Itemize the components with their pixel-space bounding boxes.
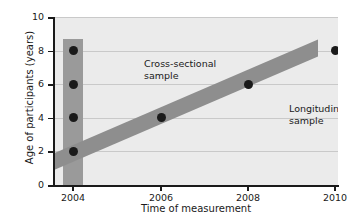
y-axis-line [53,17,55,186]
data-point-2004-6 [69,80,78,89]
data-point-2004-8 [69,46,78,55]
x-axis-line [53,185,339,187]
x-axis-title: Time of measurement [54,203,338,214]
x-tick-label-2010: 2010 [315,192,353,203]
y-tick-mark-2 [48,151,53,153]
y-tick-mark-6 [48,84,53,86]
x-tick-label-2006: 2006 [141,192,181,203]
x-tick-label-2004: 2004 [53,192,93,203]
plot-area: Cross-sectional sample Longitudinal samp… [54,17,338,185]
x-tick-mark-2008 [247,186,249,191]
data-point-2010-8 [331,46,339,55]
annotation-cross-sectional: Cross-sectional sample [144,58,216,82]
chart-figure: Cross-sectional sample Longitudinal samp… [0,0,353,220]
data-point-2008-6 [244,80,253,89]
x-tick-mark-2006 [160,186,162,191]
y-tick-mark-10 [48,17,53,19]
x-tick-mark-2004 [72,186,74,191]
y-tick-mark-4 [48,118,53,120]
data-point-2004-2 [69,147,78,156]
data-point-2006-4 [157,113,166,122]
longitudinal-band [54,17,338,185]
y-axis-title: Age of participants (years) [24,8,35,188]
x-tick-label-2008: 2008 [228,192,268,203]
y-tick-mark-0 [48,185,53,187]
y-tick-mark-8 [48,51,53,53]
annotation-longitudinal: Longitudinal sample [289,103,338,127]
x-tick-mark-2010 [334,186,336,191]
data-point-2004-4 [69,113,78,122]
